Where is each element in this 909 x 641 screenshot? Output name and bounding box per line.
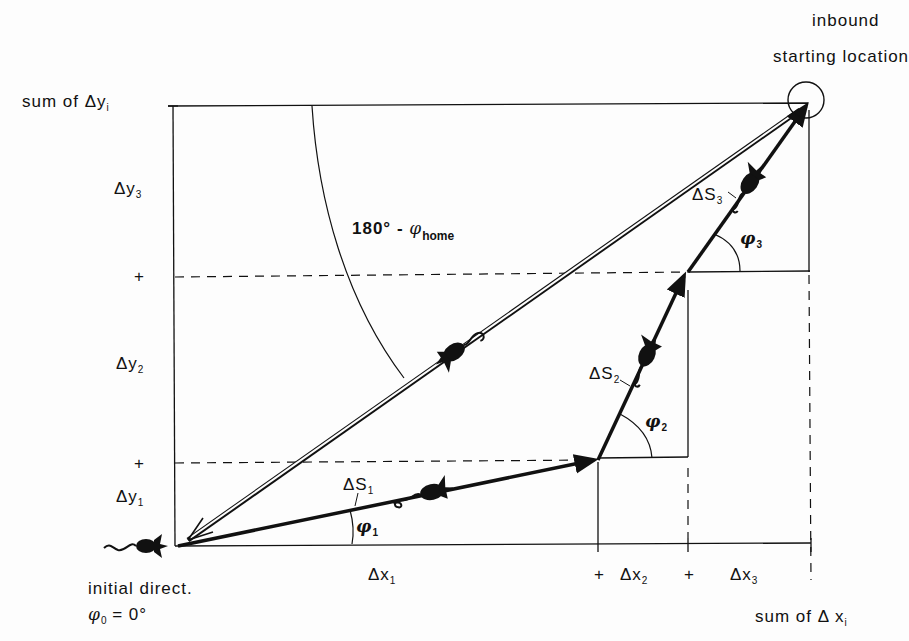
phi2-label: φ2: [645, 413, 667, 433]
phi1-label: φ1: [356, 518, 378, 538]
ds1-label: ΔS1: [343, 476, 373, 496]
phi3-label: φ3: [740, 230, 762, 250]
ds2-label: ΔS2: [589, 365, 619, 385]
dx2-label: Δx2: [620, 566, 647, 586]
ds3-label: ΔS3: [692, 186, 722, 206]
homing-vector: [188, 110, 800, 540]
phi1-arc: [350, 510, 353, 544]
mouse-icon: [104, 157, 771, 558]
plus-mark-y-lower: +: [134, 455, 145, 472]
dy1-label: Δy1: [116, 488, 143, 508]
starting-location-label: starting location: [773, 48, 909, 65]
home-angle-label: 180° - φhome: [352, 220, 454, 242]
plus-mark-y-upper: +: [134, 268, 145, 285]
dx3-label: Δx3: [730, 566, 757, 586]
dashed-guides: [175, 272, 811, 580]
sum-dy-label: sum of Δyi: [22, 93, 109, 113]
dy3-label: Δy3: [114, 180, 141, 200]
initial-direction-label: initial direct.: [88, 580, 193, 597]
plus-mark-x-right: +: [684, 566, 695, 583]
sum-dx-label: sum of Δ xi: [755, 608, 847, 628]
inbound-label: inbound: [812, 12, 880, 29]
plus-mark-x-left: +: [594, 566, 605, 583]
dx1-label: Δx1: [368, 566, 395, 586]
home-angle-arc: [312, 106, 404, 378]
phi3-arc: [714, 234, 740, 271]
initial-angle-label: φ0 = 0°: [88, 606, 147, 626]
starting-location-circle: [788, 82, 824, 118]
dy2-label: Δy2: [116, 355, 143, 375]
